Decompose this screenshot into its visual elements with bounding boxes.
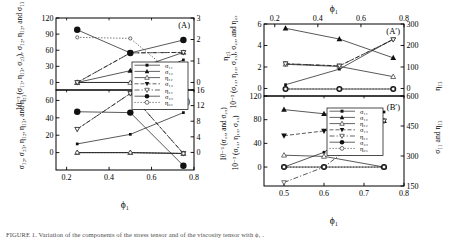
data-point-η₂₃: [391, 87, 395, 91]
data-point-σ₂₃: [74, 27, 80, 33]
ytick-label: 40: [46, 114, 54, 123]
ytick-label: 300: [407, 20, 419, 29]
ytick-label: 1: [197, 57, 201, 66]
series-line-σ₁₁: [77, 113, 183, 144]
ytick-label: 2: [197, 35, 201, 44]
data-point-σ₁₂: [283, 25, 289, 30]
ytick-label: 12: [197, 101, 205, 110]
data-point-η₂₃: [284, 87, 288, 91]
data-point-η₂₃: [182, 152, 185, 155]
data-point-η₂₃: [76, 36, 79, 39]
data-point-σ₁₁: [129, 133, 132, 136]
data-point-η₂₃: [129, 37, 132, 40]
ytick-label: 20: [46, 131, 54, 140]
ytick-label: 0: [197, 148, 201, 157]
data-point-σ₂₃: [74, 109, 80, 115]
series-line-σ₁₁: [286, 39, 394, 85]
legend-marker-η₂₃: [340, 146, 344, 150]
ytick-label: 450: [407, 122, 419, 131]
ytick-label: 120: [42, 14, 54, 23]
ytick-label: 40: [254, 139, 262, 148]
xtick-label: 0.4: [313, 14, 323, 23]
xtick-label: 0.7: [359, 189, 369, 198]
panel-tag-panel-Bprime: (B′): [387, 102, 400, 112]
data-point-σ₁₁: [182, 59, 185, 62]
yaxis-right-label-Ap: η₁₃: [433, 81, 442, 91]
legend-label: η₂₃: [165, 99, 173, 106]
series-line-σ₁₂: [286, 28, 394, 58]
xaxis-label-bottom-right: ϕ₁: [330, 216, 338, 226]
series-line-η₁₃: [286, 40, 394, 66]
yaxis-label-A: 10⁻³ (σ₁₁, η₁₃, σ₂₃), σ₁₂, η₁₂, and σ₁₃: [15, 1, 24, 110]
yaxis-right-label-B: 10⁻³ (σ₁₃, and σ₂₃): [220, 107, 228, 161]
xaxis-label-top-right: ϕ₁: [330, 4, 338, 14]
data-point-σ₂₃: [127, 50, 133, 56]
panel-tag-panel-A: (A): [178, 20, 190, 30]
xtick-label: 0.6: [356, 14, 366, 23]
data-point-σ₁₁: [284, 83, 287, 86]
data-point-σ₁₁: [76, 143, 79, 146]
ytick-label: 200: [407, 41, 419, 50]
ytick-label: 60: [46, 46, 54, 55]
ytick-label: 80: [254, 115, 262, 124]
yaxis-label-Ap: 10⁻³ (σ₁₂, η₁₂, σ₁₃), σ₂₃, and η₂₃: [229, 15, 238, 109]
data-point-σ₂₃: [180, 37, 186, 43]
data-point-η₂₃: [282, 165, 286, 169]
yaxis-right-label-Bp: σ₁₁ and η₁₃: [433, 120, 442, 154]
data-point-η₁₃: [282, 181, 287, 185]
series-line-σ₁₃: [286, 40, 394, 66]
yaxis-label-B: σ₁₂, σ₂₃, η₁₂, η₁₃, and η₂₃: [17, 94, 26, 169]
ytick-label: 90: [46, 30, 54, 39]
data-point-σ₁₁: [182, 111, 185, 114]
xtick-label: 0.6: [319, 189, 329, 198]
data-point-η₁₃: [75, 127, 80, 131]
figure-container: 03060901200123(A)0.20.40.60.802040600481…: [0, 0, 450, 245]
ytick-label: 0: [50, 78, 54, 87]
ytick-label: 4: [258, 41, 262, 50]
xtick-label: 0.6: [147, 173, 157, 182]
ytick-label: 60: [46, 96, 54, 105]
data-point-σ₂₃: [180, 162, 186, 168]
legend-marker-σ₂₃: [340, 140, 345, 145]
ytick-label: 6: [258, 20, 262, 29]
ytick-label: 150: [407, 182, 419, 191]
data-point-σ₂₃: [127, 109, 133, 115]
data-point-η₂₃: [76, 151, 79, 154]
xtick-label: 0.2: [270, 14, 280, 23]
series-line-σ₂₃: [77, 30, 183, 53]
ytick-label: 4: [197, 133, 201, 142]
ytick-label: 0: [50, 148, 54, 157]
data-point-η₂₃: [322, 165, 326, 169]
figure-caption: FIGURE 1. Variation of the components of…: [6, 231, 446, 239]
figure-canvas: 03060901200123(A)0.20.40.60.802040600481…: [0, 0, 450, 245]
ytick-label: 3: [197, 14, 201, 23]
legend-box: [132, 62, 188, 109]
xaxis-label-left: ϕ₁: [121, 200, 129, 210]
data-point-η₁₂: [282, 153, 287, 157]
series-line-σ₂₃: [77, 112, 183, 166]
data-point-η₂₃: [382, 165, 386, 169]
ytick-label: 120: [250, 92, 262, 101]
ytick-label: 300: [407, 152, 419, 161]
legend-marker-σ₁₁: [341, 110, 344, 113]
legend-label: η₂₃: [360, 145, 368, 152]
xtick-label: 0.2: [62, 173, 72, 182]
data-point-σ₁₂: [281, 107, 287, 112]
ytick-label: 2: [258, 63, 262, 72]
ytick-label: 8: [197, 117, 201, 126]
data-point-η₂₃: [338, 87, 342, 91]
xtick-label: 0.4: [104, 173, 114, 182]
panel-tag-panel-Aprime: (A′): [386, 26, 400, 36]
ytick-label: 100: [407, 63, 419, 72]
ytick-label: 0: [258, 163, 262, 172]
legend-marker-σ₂₃: [145, 94, 150, 99]
legend-box: [327, 108, 383, 155]
yaxis-label-Bp: 10⁻³ (σ₁₂, η₁₂, σ₁₃): [231, 115, 240, 171]
data-point-σ₁₃: [281, 134, 287, 139]
legend-marker-σ₁₁: [146, 64, 149, 67]
legend-marker-η₂₃: [145, 100, 149, 104]
data-point-η₂₃: [129, 151, 132, 154]
ytick-label: 30: [46, 62, 54, 71]
ytick-label: 16: [197, 86, 205, 95]
xtick-label: 0.8: [189, 173, 199, 182]
